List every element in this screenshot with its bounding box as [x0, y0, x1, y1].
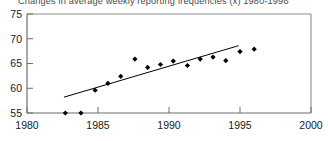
scatter-series — [63, 47, 257, 116]
data-point — [118, 74, 123, 79]
data-point — [78, 110, 83, 115]
trendline — [64, 46, 239, 97]
axis-frame — [27, 14, 311, 113]
data-point — [210, 54, 215, 59]
plot-area — [0, 0, 328, 141]
data-point — [223, 58, 228, 63]
tick-marks — [27, 14, 311, 113]
data-point — [158, 62, 163, 67]
data-point — [252, 47, 257, 52]
data-point — [185, 63, 190, 68]
trendline-path — [64, 46, 239, 97]
data-point — [132, 56, 137, 61]
chart-figure: Changes in average weekly reporting freq… — [0, 0, 328, 141]
data-point — [63, 110, 68, 115]
data-point — [237, 49, 242, 54]
data-point — [171, 58, 176, 63]
data-point — [145, 65, 150, 70]
